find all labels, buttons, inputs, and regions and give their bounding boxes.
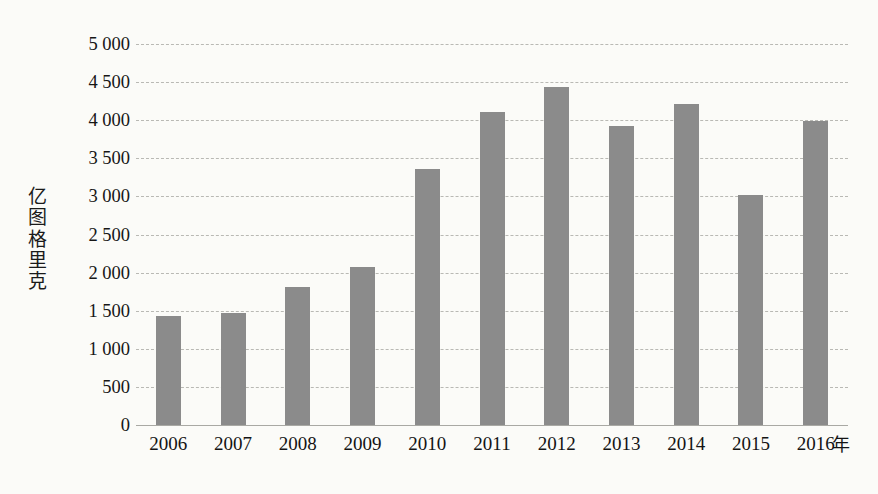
plot-area [136,44,848,425]
y-axis-tick-labels: 5 0004 5004 0003 5003 0002 5002 0001 500… [56,0,130,494]
bar-2016 [803,121,828,425]
y-axis-tick-5000: 5 000 [56,35,130,54]
y-axis-tick-1000: 1 000 [56,340,130,359]
bar-2006 [156,316,181,425]
y-axis-tick-4500: 4 500 [56,73,130,92]
gridline-0 [136,425,848,426]
x-axis-unit-label: 年 [832,436,850,454]
bar-2007 [221,313,246,425]
y-axis-tick-2000: 2 000 [56,263,130,282]
bar-2014 [674,104,699,425]
bar-2011 [480,112,505,425]
bar-chart: 亿 图 格 里 克 5 0004 5004 0003 5003 0002 500… [0,0,878,494]
bar-2008 [285,287,310,425]
bar-2009 [350,267,375,425]
bar-series [136,44,848,425]
y-axis-tick-3500: 3 500 [56,149,130,168]
y-axis-tick-0: 0 [56,416,130,435]
bar-2015 [738,195,763,425]
y-axis-tick-1500: 1 500 [56,301,130,320]
y-axis-tick-2500: 2 500 [56,225,130,244]
y-axis-tick-4000: 4 000 [56,111,130,130]
bar-2010 [415,169,440,425]
bar-2013 [609,126,634,425]
y-axis-title: 亿 图 格 里 克 [22,186,52,292]
y-axis-tick-3000: 3 000 [56,187,130,206]
x-axis-tick-labels: 2006200720082009201020112012201320142015… [136,434,848,466]
bar-2012 [544,87,569,425]
y-axis-tick-500: 500 [56,378,130,397]
